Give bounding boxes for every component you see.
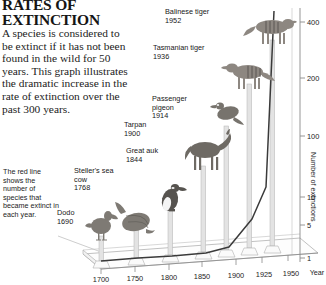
y-tick-label-100: 100 bbox=[307, 132, 319, 141]
callout-passenger-pigeon: Passenger pigeon 1914 bbox=[152, 95, 198, 121]
y-tick-5: 5 bbox=[300, 221, 311, 230]
y-tick-label-400: 400 bbox=[307, 18, 319, 27]
callout-balinese-tiger: Balinese tiger 1952 bbox=[165, 8, 209, 25]
callout-year: 1768 bbox=[74, 184, 114, 193]
callout-year: 1952 bbox=[165, 17, 209, 26]
callout-great-auk: Great auk 1844 bbox=[126, 147, 158, 164]
y-tick-label-200: 200 bbox=[307, 74, 319, 83]
callout-year: 1844 bbox=[126, 156, 158, 165]
passenger-pigeon-illustration bbox=[210, 102, 244, 125]
x-tick-label-1850: 1850 bbox=[194, 272, 210, 281]
callout-year: 1936 bbox=[153, 53, 205, 62]
y-tick-200: 200 bbox=[300, 74, 319, 83]
callout-steller-sea-cow: Steller's sea cow 1768 bbox=[74, 167, 114, 193]
x-tick-label-1925: 1925 bbox=[256, 270, 272, 279]
y-axis: 400 200 100 10 5 1 Number of extinctions bbox=[292, 8, 319, 263]
y-tick-1: 1 bbox=[300, 254, 311, 263]
x-tick-label-1750: 1750 bbox=[127, 274, 143, 283]
x-tick-label-1700: 1700 bbox=[93, 275, 109, 284]
extinction-infographic: RATES OF EXTINCTION A species is conside… bbox=[0, 0, 326, 285]
callout-name: Passenger pigeon bbox=[152, 94, 187, 112]
y-tick-100: 100 bbox=[300, 132, 319, 141]
callout-name: Great auk bbox=[126, 146, 158, 155]
y-axis-title: Number of extinctions bbox=[309, 152, 318, 222]
x-tick-label-1950: 1950 bbox=[283, 269, 299, 278]
great-auk-illustration bbox=[160, 184, 187, 212]
x-tick-label-1900: 1900 bbox=[228, 271, 244, 280]
pedestal-balinese-tiger bbox=[264, 40, 281, 253]
callout-name: Balinese tiger bbox=[165, 7, 209, 16]
chart-base-platform bbox=[83, 234, 318, 269]
callout-tarpan: Tarpan 1900 bbox=[124, 121, 146, 138]
callout-year: 1690 bbox=[57, 218, 74, 227]
callout-tasmanian-tiger: Tasmanian tiger 1936 bbox=[153, 44, 205, 61]
callout-name: Dodo bbox=[57, 208, 74, 217]
callout-year: 1914 bbox=[152, 112, 198, 121]
steller-sea-cow-illustration bbox=[115, 202, 155, 234]
callout-dodo: Dodo 1690 bbox=[57, 209, 74, 226]
callout-name: Tasmanian tiger bbox=[153, 43, 205, 52]
x-tick-label-1800: 1800 bbox=[161, 273, 177, 282]
y-tick-400: 400 bbox=[300, 18, 319, 27]
callout-name: Steller's sea cow bbox=[74, 166, 114, 184]
callout-name: Tarpan bbox=[124, 120, 146, 129]
y-tick-label-5: 5 bbox=[307, 221, 311, 230]
x-axis-title: Year bbox=[310, 268, 325, 277]
y-tick-label-1: 1 bbox=[307, 254, 311, 263]
dodo-illustration bbox=[85, 211, 118, 240]
callout-year: 1900 bbox=[124, 130, 146, 139]
